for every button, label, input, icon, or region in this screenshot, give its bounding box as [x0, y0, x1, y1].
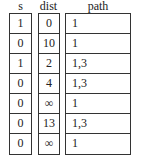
cell-s-4: 0	[10, 94, 31, 114]
cell-path-4: 1	[66, 94, 130, 114]
column-s: 1 0 1 0 0 0 0	[9, 13, 32, 155]
cell-path-6: 1	[66, 134, 130, 154]
cell-dist-5: 13	[39, 114, 59, 134]
cell-s-5: 0	[10, 114, 31, 134]
cell-s-1: 0	[10, 34, 31, 54]
header-s: s	[9, 0, 32, 13]
cell-dist-1: 10	[39, 34, 59, 54]
cell-path-3: 1,3	[66, 74, 130, 94]
header-dist: dist	[37, 0, 60, 13]
header-path: path	[65, 0, 131, 13]
cell-dist-0: 0	[39, 14, 59, 34]
cell-dist-2: 2	[39, 54, 59, 74]
cell-s-6: 0	[10, 134, 31, 154]
cell-path-1: 1	[66, 34, 130, 54]
cell-dist-3: 4	[39, 74, 59, 94]
cell-path-0: 1	[66, 14, 130, 34]
cell-path-5: 1,3	[66, 114, 130, 134]
cell-path-2: 1,3	[66, 54, 130, 74]
cell-dist-6: ∞	[39, 134, 59, 154]
cell-s-0: 1	[10, 14, 31, 34]
column-dist: 0 10 2 4 ∞ 13 ∞	[38, 13, 60, 155]
cell-dist-4: ∞	[39, 94, 59, 114]
cell-s-3: 0	[10, 74, 31, 94]
column-path: 1 1 1,3 1,3 1 1,3 1	[65, 13, 131, 155]
cell-s-2: 1	[10, 54, 31, 74]
